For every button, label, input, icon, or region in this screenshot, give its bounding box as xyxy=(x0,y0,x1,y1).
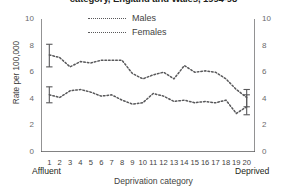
y-axis-tick-label-left: 6 xyxy=(18,67,34,76)
y-axis-tick-label-right: 2 xyxy=(262,120,278,129)
x-axis-right-end-label: Deprived xyxy=(235,166,269,176)
y-axis-tick-label-right: 0 xyxy=(262,147,278,156)
y-axis-tick-label-right: 10 xyxy=(262,14,278,23)
y-axis-tick-label-right: 4 xyxy=(262,94,278,103)
x-axis-label: Deprivation category xyxy=(0,176,307,186)
y-axis-tick-label-left: 4 xyxy=(18,94,34,103)
series-line-females xyxy=(49,89,246,113)
y-axis-tick-label-right: 8 xyxy=(262,41,278,50)
plot-area xyxy=(41,19,255,152)
figure: category, England and Wales, 1994-98 Mal… xyxy=(0,0,307,194)
y-axis-tick-label-right: 6 xyxy=(262,67,278,76)
series-line-males xyxy=(49,55,246,98)
y-axis-tick-label-left: 2 xyxy=(18,120,34,129)
x-axis-left-end-label: Affluent xyxy=(32,166,61,176)
y-axis-tick-label-left: 8 xyxy=(18,41,34,50)
y-axis-tick-label-left: 0 xyxy=(18,147,34,156)
chart-svg xyxy=(41,19,255,152)
x-axis-tick-label: 20 xyxy=(240,158,254,167)
y-axis-tick-label-left: 10 xyxy=(18,14,34,23)
chart-title: category, England and Wales, 1994-98 xyxy=(0,0,307,4)
